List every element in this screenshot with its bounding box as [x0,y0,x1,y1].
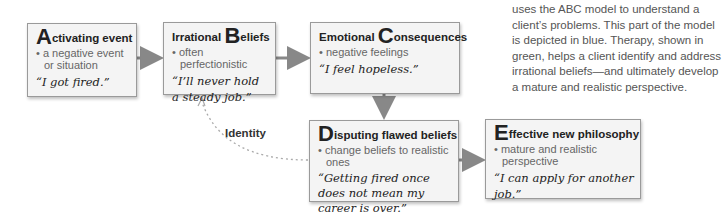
box-quote: “I got fired.” [36,74,130,90]
identity-label: Identity [225,127,266,139]
box-quote: “I feel hopeless.” [319,61,453,77]
box-quote: “Getting fired once does not mean my car… [318,171,452,214]
box-quote: “I’ll never hold a steady job.” [172,73,269,105]
caption-text: uses the ABC model to understand a clien… [512,2,722,95]
box-title: Disputing flawed beliefs [318,125,452,143]
box-bullet: • often perfectionistic [172,46,269,70]
box-effective-philosophy: Effective new philosophy • mature and re… [485,119,641,199]
box-title: Activating event [36,28,130,46]
box-bullet: • negative feelings [319,46,453,58]
box-title: Irrational Beliefs [172,27,269,45]
box-disputing-beliefs: Disputing flawed beliefs • change belief… [309,120,459,202]
box-bullet: • a negative event or situation [36,47,130,71]
box-activating-event: Activating event • a negative event or s… [27,23,137,97]
box-irrational-beliefs: Irrational Beliefs • often perfectionist… [163,22,276,95]
box-title: Effective new philosophy [494,124,634,142]
box-title: Emotional Consequences [319,27,453,45]
box-bullet: • mature and realistic perspective [494,143,634,167]
box-quote: “I can apply for another job.” [494,170,634,202]
box-emotional-consequences: Emotional Consequences • negative feelin… [310,22,460,94]
box-bullet: • change beliefs to realistic ones [318,144,452,168]
